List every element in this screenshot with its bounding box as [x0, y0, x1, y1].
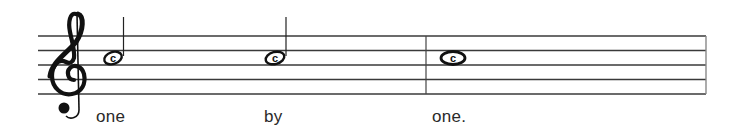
- whole-note: c: [441, 52, 465, 65]
- treble-clef-icon: [50, 14, 85, 118]
- lyric-word-2: by: [264, 107, 283, 127]
- half-note-1: c: [103, 17, 124, 66]
- half-note-2: c: [264, 17, 286, 66]
- lyric-word-1: one: [96, 107, 125, 127]
- note-letter: c: [272, 52, 278, 64]
- lyric-word-3: one.: [432, 107, 466, 127]
- staff-lines: [38, 36, 706, 94]
- note-letter: c: [450, 52, 456, 64]
- note-letter: c: [110, 52, 116, 64]
